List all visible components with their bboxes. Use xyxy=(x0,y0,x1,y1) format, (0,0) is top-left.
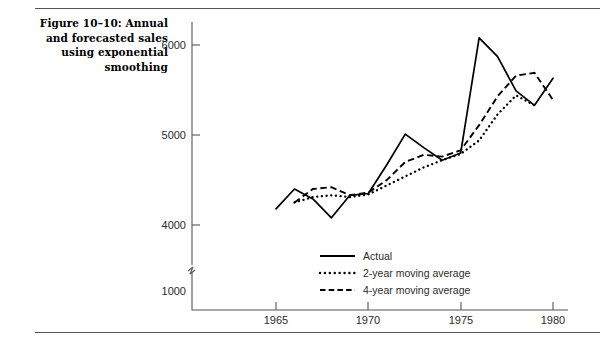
legend-label-2-year-moving-average: 2-year moving average xyxy=(363,267,471,279)
y-tick-label-1000: 1000 xyxy=(162,285,186,297)
y-tick-label-5000: 5000 xyxy=(162,129,186,141)
legend-label-4-year-moving-average: 4-year moving average xyxy=(363,284,471,296)
series-line-actual xyxy=(276,38,553,218)
legend-label-actual: Actual xyxy=(363,250,392,262)
x-tick-label-1965: 1965 xyxy=(264,314,288,326)
chart-canvas: 6000 5000 4000 1000 1965 1970 1975 1980 … xyxy=(0,0,612,345)
legend: Actual 2-year moving average 4-year movi… xyxy=(320,250,471,296)
axis-break-icon xyxy=(188,267,195,274)
x-tick-label-1970: 1970 xyxy=(356,314,380,326)
series-line-4-year-moving-average xyxy=(294,73,553,203)
y-tick-label-4000: 4000 xyxy=(162,219,186,231)
x-tick-label-1980: 1980 xyxy=(541,314,565,326)
x-tick-label-1975: 1975 xyxy=(449,314,473,326)
figure-page: Figure 10–10: Annual and forecasted sale… xyxy=(0,0,612,345)
y-tick-label-6000: 6000 xyxy=(162,39,186,51)
